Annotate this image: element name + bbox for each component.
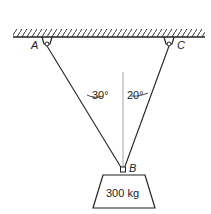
angle-left-label: 30° (92, 89, 109, 101)
node-b (121, 167, 126, 172)
support-c (164, 37, 174, 46)
label-a: A (30, 39, 38, 51)
angle-right-label: 20° (127, 89, 144, 101)
support-a (42, 37, 52, 46)
pulley-diagram: A C B 30° 20° 300 kg (0, 0, 211, 214)
cable-cb (124, 46, 169, 169)
ceiling (13, 29, 205, 37)
mass-label: 300 kg (106, 187, 139, 199)
cable-ab (47, 46, 122, 169)
label-c: C (177, 39, 185, 51)
label-b: B (129, 162, 136, 174)
